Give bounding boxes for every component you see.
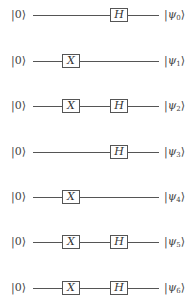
wire-line bbox=[33, 242, 159, 243]
qubit-wire-1: |0⟩ |ψ1⟩ X bbox=[0, 52, 194, 72]
gate-x: X bbox=[62, 99, 80, 113]
input-state-label: |0⟩ bbox=[11, 8, 26, 22]
qubit-wire-2: |0⟩ |ψ2⟩ XH bbox=[0, 97, 194, 117]
gate-x: X bbox=[62, 190, 80, 204]
output-state-label: |ψ1⟩ bbox=[164, 54, 185, 71]
gate-x: X bbox=[62, 281, 80, 295]
qubit-wire-4: |0⟩ |ψ4⟩ X bbox=[0, 188, 194, 208]
output-state-label: |ψ0⟩ bbox=[164, 8, 185, 25]
qubit-wire-6: |0⟩ |ψ6⟩ XH bbox=[0, 279, 194, 299]
output-state-label: |ψ6⟩ bbox=[164, 281, 185, 298]
wire-line bbox=[33, 106, 159, 107]
qubit-wire-3: |0⟩ |ψ3⟩ H bbox=[0, 143, 194, 163]
output-state-label: |ψ4⟩ bbox=[164, 190, 185, 207]
gate-h: H bbox=[110, 281, 128, 295]
input-state-label: |0⟩ bbox=[11, 54, 26, 68]
qubit-wire-0: |0⟩ |ψ0⟩ H bbox=[0, 6, 194, 26]
gate-x: X bbox=[62, 54, 80, 68]
input-state-label: |0⟩ bbox=[11, 145, 26, 159]
input-state-label: |0⟩ bbox=[11, 190, 26, 204]
output-state-label: |ψ2⟩ bbox=[164, 99, 185, 116]
input-state-label: |0⟩ bbox=[11, 281, 26, 295]
output-state-label: |ψ3⟩ bbox=[164, 145, 185, 162]
gate-h: H bbox=[110, 8, 128, 22]
input-state-label: |0⟩ bbox=[11, 99, 26, 113]
gate-h: H bbox=[110, 99, 128, 113]
output-state-label: |ψ5⟩ bbox=[164, 235, 185, 252]
gate-h: H bbox=[110, 145, 128, 159]
gate-h: H bbox=[110, 235, 128, 249]
wire-line bbox=[33, 152, 159, 153]
wire-line bbox=[33, 15, 159, 16]
wire-line bbox=[33, 197, 159, 198]
wire-line bbox=[33, 61, 159, 62]
gate-x: X bbox=[62, 235, 80, 249]
input-state-label: |0⟩ bbox=[11, 235, 26, 249]
qubit-wire-5: |0⟩ |ψ5⟩ XH bbox=[0, 233, 194, 253]
wire-line bbox=[33, 288, 159, 289]
